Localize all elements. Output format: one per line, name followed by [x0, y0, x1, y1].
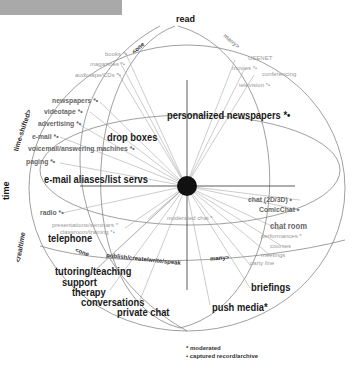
- label-books: books *•: [105, 51, 127, 57]
- center-node: [177, 176, 197, 196]
- label-conferencing: conferencing: [262, 71, 296, 77]
- label-meetings: meetings: [261, 252, 285, 258]
- label-performances: performances *: [261, 233, 302, 239]
- label-push-media: push media*: [212, 302, 268, 313]
- label-paging: paging *•: [26, 158, 55, 166]
- axis-time: time: [2, 181, 11, 200]
- sphere-diagram: [0, 0, 355, 373]
- label-comicchat: ComicChat •: [259, 206, 299, 214]
- label-personalized-newspapers: personalized newspapers *•: [167, 110, 290, 121]
- label-magazines: magazines *•: [90, 61, 125, 67]
- label-movies: movies *•: [232, 65, 257, 71]
- label-email-aliases: e-mail aliases/list servs: [44, 174, 148, 185]
- axis-read: read: [176, 15, 195, 24]
- label-telephone: telephone: [48, 233, 92, 244]
- label-voicemail: voicemail/answering machines *•: [28, 145, 135, 153]
- label-party-line: party line: [250, 260, 274, 266]
- label-briefings: briefings: [251, 282, 290, 293]
- label-advertising: advertising *•: [38, 120, 81, 128]
- label-radio: radio *•: [40, 209, 64, 217]
- label-television: television *•: [239, 82, 270, 88]
- label-presentations: presentations/seminars *: [52, 222, 118, 228]
- legend-captured: • captured record/archive: [186, 353, 258, 359]
- label-videotape: videotape *•: [44, 108, 83, 116]
- label-usenet: USENET: [248, 55, 272, 61]
- label-moderated-chat: moderated chat *: [167, 215, 213, 221]
- label-chat-room: chat room: [270, 222, 307, 231]
- label-courses: courses: [270, 243, 291, 249]
- label-newspapers: newspapers *•: [52, 97, 98, 105]
- label-chat-2d3d: chat (2D/3D) •: [248, 196, 292, 204]
- label-private-chat: private chat: [117, 307, 169, 318]
- legend-moderated: * moderated: [186, 345, 221, 351]
- label-drop-boxes: drop boxes: [107, 132, 157, 143]
- label-email: e-mail *•: [32, 133, 59, 141]
- label-audiotape: audiotape/CDs *•: [75, 72, 121, 78]
